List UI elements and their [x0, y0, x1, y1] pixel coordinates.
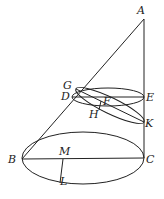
label-E: E: [145, 91, 154, 104]
label-C: C: [146, 153, 155, 166]
label-L: L: [59, 175, 67, 188]
label-A: A: [136, 4, 145, 17]
line-BC: [22, 158, 144, 159]
label-M: M: [58, 145, 71, 158]
label-B: B: [7, 153, 16, 166]
cone-diagram: A B C D E F G H K M L: [0, 0, 164, 199]
label-G: G: [63, 79, 72, 92]
label-F: F: [102, 95, 111, 108]
label-H: H: [88, 108, 99, 121]
label-K: K: [144, 117, 154, 130]
